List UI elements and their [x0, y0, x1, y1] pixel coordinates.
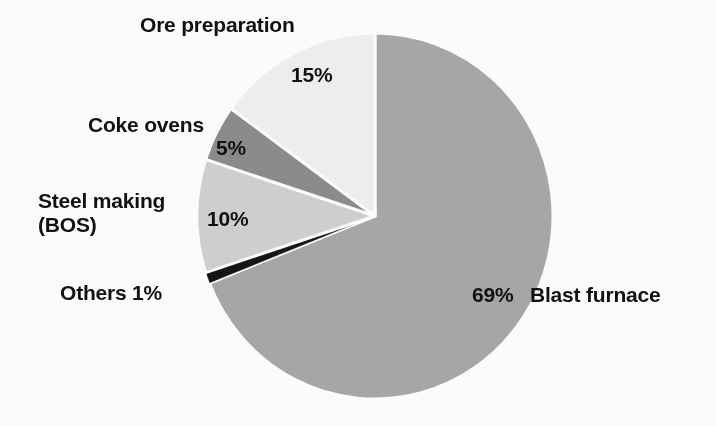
slice-label-steel-making-line2: (BOS): [38, 213, 165, 237]
slice-label-others: Others 1%: [60, 281, 162, 305]
slice-label-steel-making: Steel making(BOS): [38, 189, 165, 236]
slice-label-ore-preparation: Ore preparation: [140, 13, 295, 37]
pie-slices-group: [197, 33, 553, 399]
slice-percent-steel-making: 10%: [207, 207, 248, 231]
slice-label-coke-ovens: Coke ovens: [88, 113, 204, 137]
slice-percent-coke-ovens: 5%: [216, 136, 246, 160]
pie-chart-figure: Ore preparation Coke ovens Steel making(…: [0, 0, 716, 426]
slice-label-blast-furnace: Blast furnace: [530, 283, 660, 307]
slice-percent-blast-furnace: 69%: [472, 283, 513, 307]
slice-label-steel-making-line1: Steel making: [38, 189, 165, 212]
slice-percent-ore-preparation: 15%: [291, 63, 332, 87]
